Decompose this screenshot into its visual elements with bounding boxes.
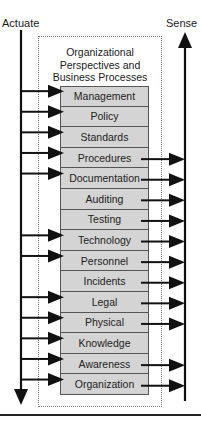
actuate-arrowhead-icon: [48, 373, 64, 386]
bottom-rule: [0, 414, 201, 416]
actuate-arrowhead-icon: [48, 291, 64, 304]
sense-arrowhead-icon: [169, 317, 185, 330]
sense-arrowhead-icon: [169, 256, 185, 269]
sense-arrowhead-icon: [169, 153, 185, 166]
sense-arrowhead-icon: [169, 194, 185, 207]
sense-up-arrow-icon: [178, 32, 192, 48]
actuate-arrowhead-icon: [48, 332, 64, 345]
actuate-arrowhead-icon: [48, 85, 64, 98]
sense-arrowhead-icon: [169, 173, 185, 186]
actuate-arrowhead-icon: [48, 146, 64, 159]
sense-arrows: [141, 153, 185, 393]
actuate-arrowhead-icon: [48, 167, 64, 180]
actuate-arrows: [21, 85, 64, 386]
sense-arrowhead-icon: [169, 297, 185, 310]
sense-arrowhead-icon: [169, 359, 185, 372]
sense-arrowhead-icon: [169, 379, 185, 392]
sense-arrowhead-icon: [169, 235, 185, 248]
sense-arrowhead-icon: [169, 276, 185, 289]
actuate-down-arrow-icon: [14, 389, 28, 405]
actuate-arrowhead-icon: [48, 126, 64, 139]
actuate-arrowhead-icon: [48, 352, 64, 365]
sense-arrowhead-icon: [169, 214, 185, 227]
arrows-layer: [0, 0, 201, 428]
actuate-arrowhead-icon: [48, 229, 64, 242]
actuate-arrowhead-icon: [48, 311, 64, 324]
actuate-arrowhead-icon: [48, 249, 64, 262]
actuate-arrowhead-icon: [48, 105, 64, 118]
